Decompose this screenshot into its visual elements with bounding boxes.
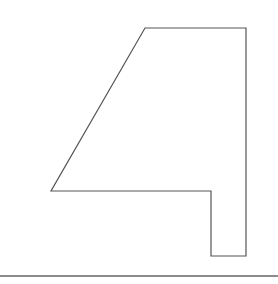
numeral-four-outline — [51, 28, 246, 256]
drawing-svg — [0, 0, 278, 284]
drawing-canvas — [0, 0, 278, 284]
